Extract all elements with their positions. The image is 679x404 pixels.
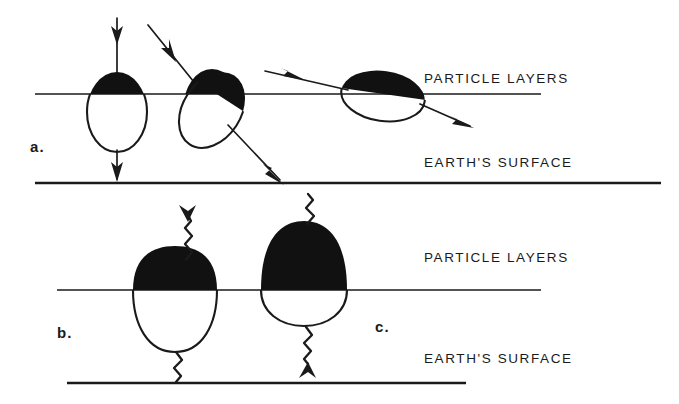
panel-b-label: b.: [57, 324, 73, 341]
upward-wave-ray: [306, 194, 314, 224]
downward-wave-ray: [304, 327, 312, 364]
blob-outline-lower-semicircle: [261, 290, 347, 326]
panel-bc: b. c. PARTICLE LAYERS EARTH'S SURFACE: [57, 194, 573, 383]
panel-b-particle-layers-label: PARTICLE LAYERS: [424, 250, 569, 265]
event-oblique-transit: [146, 25, 284, 185]
panel-c-label: c.: [375, 318, 390, 335]
blob-upper-dark-dome: [133, 246, 217, 290]
outgoing-ray-arrowhead: [450, 116, 474, 128]
blob-upper-dark-cap: [338, 65, 428, 126]
diagram-canvas: a. PARTICLE LAYERS EARTH'S SURFACE: [0, 0, 679, 404]
outgoing-ray: [228, 125, 280, 180]
event-vertical-transit: [87, 18, 147, 182]
incoming-ray-arrowhead: [161, 39, 176, 62]
panel-a: a. PARTICLE LAYERS EARTH'S SURFACE: [30, 18, 661, 185]
panel-b-earths-surface-label: EARTH'S SURFACE: [424, 351, 573, 366]
panel-a-earths-surface-label: EARTH'S SURFACE: [424, 155, 573, 170]
panel-a-label: a.: [30, 138, 45, 155]
incoming-ray: [265, 71, 348, 90]
downward-wave-ray: [174, 352, 182, 382]
particle-layer-diagram: a. PARTICLE LAYERS EARTH'S SURFACE: [0, 0, 679, 404]
blob-outline-lower-teardrop: [133, 290, 217, 352]
downward-wave-arrowhead: [299, 362, 316, 378]
event-upward-wave-emission: [133, 205, 217, 382]
blob-upper-dark-dome-tall: [261, 221, 347, 290]
upward-wave-arrowhead: [179, 205, 196, 222]
panel-a-particle-layers-label: PARTICLE LAYERS: [424, 71, 569, 86]
event-downward-wave-emission: [261, 194, 347, 378]
